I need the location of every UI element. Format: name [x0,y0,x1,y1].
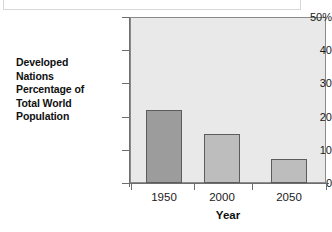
page-box-border [3,0,301,10]
y-axis-label-line-2: Nations [16,70,108,84]
bar-1950 [146,110,182,183]
y-tick-label: 40 [216,44,332,56]
y-tick-mark [122,150,130,151]
x-tick-label: 1950 [134,191,194,203]
y-tick-mark [122,183,130,184]
x-axis-title: Year [130,209,326,221]
y-axis-label-line-3: Percentage of [16,83,108,97]
y-tick-mark [122,17,130,18]
y-tick-label: 50% [216,11,332,23]
y-axis-line [129,17,130,187]
x-tick-mark [194,183,195,190]
x-tick-label: 2050 [259,191,319,203]
y-axis-label-line-1: Developed [16,56,108,70]
y-tick-mark [122,50,130,51]
y-tick-label: 20 [216,111,332,123]
x-tick-mark [252,183,253,190]
y-tick-mark [122,83,130,84]
bar-2050 [271,159,307,183]
x-tick-label: 2000 [192,191,252,203]
y-axis-label-line-5: Population [16,110,108,124]
y-axis-label-line-4: Total World [16,97,108,111]
y-tick-mark [122,117,130,118]
y-tick-label: 30 [216,77,332,89]
bar-chart-figure: Developed Nations Percentage of Total Wo… [0,0,332,232]
x-tick-mark [131,183,132,190]
x-tick-mark [326,183,327,190]
y-axis-label: Developed Nations Percentage of Total Wo… [16,56,108,124]
bar-2000 [204,134,240,183]
